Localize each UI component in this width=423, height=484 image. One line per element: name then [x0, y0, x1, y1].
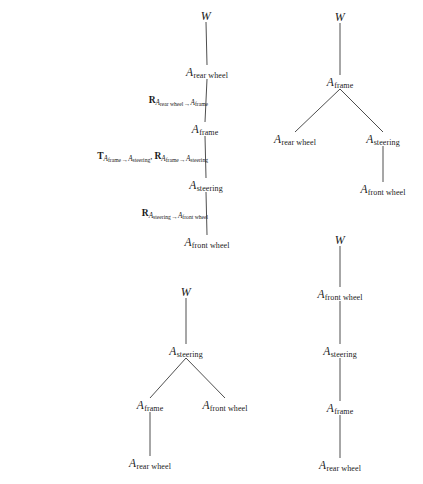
tree-node-tl-front: Afront wheel: [184, 237, 229, 249]
tree-node-tl-rear: Arear wheel: [186, 67, 228, 79]
tree-node-bl-frame: Aframe: [137, 400, 164, 412]
node-subscript: rear wheel: [136, 462, 171, 471]
tree-edge: [295, 89, 340, 132]
transform-symbol: R: [142, 208, 149, 218]
tree-edge: [150, 358, 186, 398]
transform-subscript: Arear wheel→Aframe: [156, 99, 208, 106]
label-steering-to-front: RAsteering→Afront wheel: [142, 209, 208, 219]
node-subscript: frame: [199, 128, 218, 137]
transform-subscript: Aframe→Asteering: [161, 155, 208, 162]
node-symbol: W: [181, 285, 191, 299]
node-subscript: steering: [331, 350, 357, 359]
transform-subscript: Aframe→Asteering: [104, 155, 151, 162]
node-subscript: steering: [197, 184, 223, 193]
transform-symbol: R: [149, 95, 156, 105]
tree-node-bl-rear: Arear wheel: [129, 458, 171, 470]
tree-node-bl-steer: Asteering: [169, 346, 203, 358]
tree-edge: [206, 22, 207, 65]
label-rear-to-frame: RArear wheel→Aframe: [149, 96, 208, 106]
target-frame-name: front wheel: [182, 214, 208, 220]
tree-node-bl-front: Afront wheel: [202, 400, 247, 412]
node-symbol: W: [201, 9, 211, 23]
tree-node-bl-w: W: [181, 286, 191, 299]
tree-edge: [186, 358, 225, 398]
tree-node-tr-rear: Arear wheel: [274, 134, 316, 146]
tree-node-br-frame: Aframe: [327, 403, 354, 415]
tree-edge: [340, 89, 383, 132]
node-symbol: W: [335, 233, 345, 247]
transform-subscript: Asteering→Afront wheel: [149, 212, 208, 219]
node-subscript: front wheel: [325, 293, 363, 302]
target-frame-name: steering: [133, 157, 151, 163]
node-subscript: steering: [177, 350, 203, 359]
tree-node-tr-frame: Aframe: [327, 77, 354, 89]
tree-node-br-front: Afront wheel: [317, 289, 362, 301]
source-frame-name: rear wheel: [160, 101, 183, 107]
target-frame-name: steering: [190, 157, 208, 163]
source-frame-name: frame: [166, 157, 179, 163]
target-frame-symbol: A: [178, 212, 182, 220]
tree-node-tr-w: W: [335, 11, 345, 24]
tree-node-tr-steer: Asteering: [366, 134, 400, 146]
tree-node-br-w: W: [335, 234, 345, 247]
node-subscript: rear wheel: [193, 71, 228, 80]
node-subscript: rear wheel: [326, 464, 361, 473]
arrow-icon: →: [183, 101, 190, 108]
target-frame-name: frame: [195, 101, 208, 107]
label-frame-to-steering: TAframe→Asteering,RAframe→Asteering: [97, 152, 208, 162]
node-subscript: frame: [334, 81, 353, 90]
arrow-icon: →: [121, 157, 128, 164]
tree-node-br-steer: Asteering: [323, 346, 357, 358]
tree-node-tl-steer: Asteering: [189, 180, 223, 192]
node-subscript: rear wheel: [281, 138, 316, 147]
tree-node-tl-frame: Aframe: [192, 124, 219, 136]
node-subscript: front wheel: [192, 241, 230, 250]
node-subscript: front wheel: [368, 188, 406, 197]
node-subscript: frame: [334, 407, 353, 416]
node-subscript: steering: [374, 138, 400, 147]
arrow-icon: →: [179, 157, 186, 164]
node-subscript: frame: [144, 404, 163, 413]
node-subscript: front wheel: [210, 404, 248, 413]
source-frame-name: frame: [108, 157, 121, 163]
arrow-icon: →: [171, 214, 178, 221]
tree-node-tl-w: W: [201, 10, 211, 23]
source-frame-name: steering: [153, 214, 171, 220]
tree-node-br-rear: Arear wheel: [319, 460, 361, 472]
tree-node-tr-front: Afront wheel: [360, 184, 405, 196]
kinematic-tree-figure: WArear wheelAframeAsteeringAfront wheelW…: [0, 0, 423, 484]
node-symbol: W: [335, 10, 345, 24]
